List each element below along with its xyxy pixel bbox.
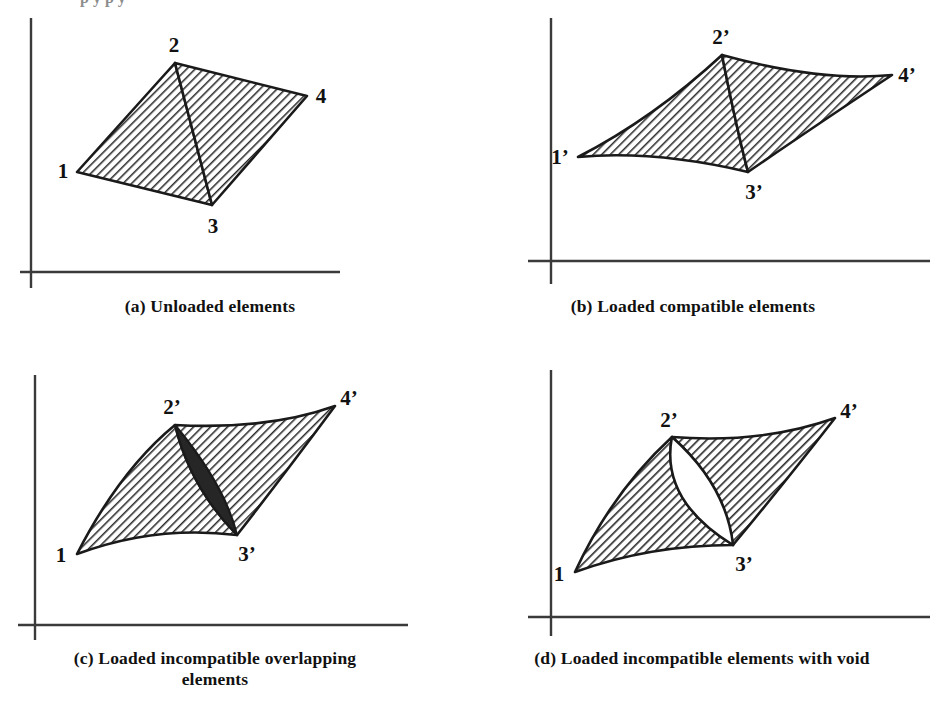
node-label-2-prime: 2’ — [712, 25, 730, 49]
caption-panel-b: (b) Loaded compatible elements — [468, 296, 918, 317]
node-label-1: 1 — [554, 562, 565, 586]
element-mesh-b — [578, 55, 892, 172]
node-label-4-prime: 4’ — [898, 63, 916, 87]
element-mesh-d — [575, 418, 835, 572]
node-label-2: 2 — [169, 33, 180, 57]
caption-panel-c: (c) Loaded incompatible overlapping elem… — [0, 648, 430, 691]
caption-panel-a: (a) Unloaded elements — [0, 296, 420, 317]
node-label-3-prime: 3’ — [238, 542, 256, 566]
panel-b-loaded-compatible-elements: 1’ 2’ 3’ 4’ — [468, 0, 936, 290]
node-label-1: 1 — [56, 543, 67, 567]
panel-c-loaded-incompatible-overlapping-elements: 1 2’ 3’ 4’ — [0, 352, 468, 642]
panel-a-unloaded-elements: 1 2 3 4 — [0, 0, 468, 290]
panel-d-loaded-incompatible-elements-with-void: 1 2’ 3’ 4’ — [468, 352, 936, 642]
node-label-3: 3 — [208, 214, 219, 238]
element-mesh-a — [77, 63, 307, 205]
element-mesh-c — [77, 406, 335, 554]
node-label-3-prime: 3’ — [735, 552, 753, 576]
figure-root: p y p y 1 2 3 4 — [0, 0, 936, 707]
node-label-4-prime: 4’ — [840, 399, 858, 423]
node-label-1: 1 — [58, 159, 69, 183]
node-label-2-prime: 2’ — [163, 395, 181, 419]
node-label-4: 4 — [316, 84, 327, 108]
node-label-4-prime: 4’ — [340, 386, 358, 410]
node-label-2-prime: 2’ — [660, 408, 678, 432]
node-label-3-prime: 3’ — [745, 180, 763, 204]
element-curved-234 — [722, 55, 892, 172]
element-curved-123 — [578, 55, 748, 172]
caption-panel-d: (d) Loaded incompatible elements with vo… — [468, 648, 936, 669]
node-label-1-prime: 1’ — [551, 145, 569, 169]
